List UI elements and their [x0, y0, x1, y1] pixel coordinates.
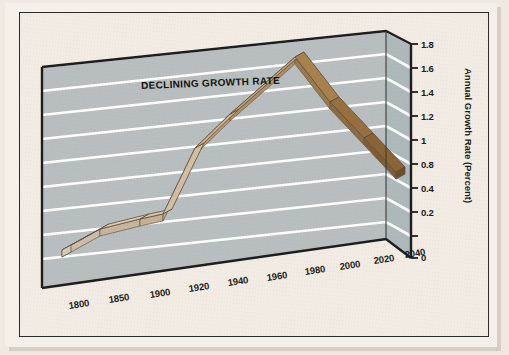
y-tick-label-1: 1 [421, 135, 426, 146]
y-tick-label-0-2: 0.2 [421, 207, 434, 218]
y-tick-label-1-2: 1.2 [421, 111, 434, 122]
y-tick-label-1-6: 1.6 [421, 63, 434, 74]
y-axis-title: Annual Growth Rate (Percent) [463, 68, 474, 203]
figure-stage: DECLINING GROWTH RATE 1.8 1.6 1.4 1.2 1 … [0, 0, 509, 355]
y-tick-label-1-8: 1.8 [421, 39, 434, 50]
y-tick-label-0-8: 0.8 [421, 159, 434, 170]
y-tick-label-0-4: 0.4 [421, 183, 434, 194]
y-tick-label-1-4: 1.4 [421, 87, 434, 98]
plot-back-wall [42, 31, 411, 288]
